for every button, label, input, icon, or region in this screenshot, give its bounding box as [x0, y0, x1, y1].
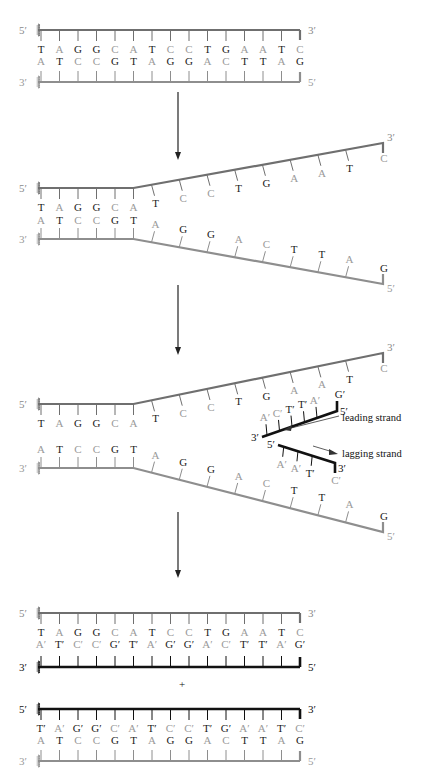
base-letter: C — [167, 43, 174, 55]
base-letter: A — [241, 43, 249, 55]
base-letter: G′ — [73, 722, 83, 734]
base-letter: A′ — [310, 394, 320, 406]
base-letter: T — [278, 43, 285, 55]
base-letter: C′ — [92, 638, 102, 650]
five-prime-label: 5′ — [308, 755, 316, 767]
base-letter: G′ — [295, 638, 305, 650]
three-prime-label: 3′ — [308, 703, 316, 715]
daughter-duplex-1: 5′3′3′5′TA′AT′GC′GC′CG′AT′TA′CG′CG′TA′GC… — [19, 607, 316, 673]
base-letter: G — [111, 55, 119, 67]
base-letter: G′ — [110, 638, 120, 650]
base-letter: A′ — [147, 638, 157, 650]
base-tick — [283, 447, 284, 457]
base-tick — [290, 372, 293, 383]
strand-end-squiggle — [38, 398, 40, 410]
base-letter: T — [38, 417, 45, 429]
base-letter: G — [179, 456, 187, 468]
base-letter: T′ — [240, 638, 249, 650]
daughter-duplex-2: 5′3′3′5′T′AA′TG′CG′CC′GA′TT′AC′GC′GT′AG′… — [19, 703, 316, 767]
base-letter: C′ — [221, 638, 231, 650]
base-letter: G — [296, 734, 304, 746]
base-letter: C — [93, 55, 100, 67]
base-letter: A — [346, 253, 354, 265]
strand-end-squiggle — [38, 76, 40, 88]
arrow-step-2 — [175, 285, 181, 355]
three-prime-label: 3′ — [338, 462, 346, 474]
base-letter: C — [74, 443, 81, 455]
base-letter: T — [130, 214, 137, 226]
base-letter: A′ — [277, 458, 287, 470]
five-prime-label: 5′ — [308, 661, 316, 673]
base-tick — [318, 155, 321, 166]
base-letter: T — [38, 626, 45, 638]
base-letter: C — [380, 152, 387, 164]
plus-sign: + — [179, 678, 185, 690]
base-letter: A — [259, 43, 267, 55]
base-letter: G — [111, 443, 119, 455]
base-tick — [179, 236, 182, 247]
base-letter: C′ — [273, 407, 283, 419]
base-tick — [152, 185, 155, 196]
base-letter: T — [318, 491, 325, 503]
base-letter: C — [111, 417, 118, 429]
base-letter: C′ — [166, 722, 176, 734]
base-letter: A — [37, 443, 45, 455]
base-letter: G′ — [184, 638, 194, 650]
base-letter: G — [222, 43, 230, 55]
base-letter: T — [318, 248, 325, 260]
arrow-step-3 — [175, 512, 181, 578]
base-letter: T — [241, 55, 248, 67]
base-letter: T — [56, 55, 63, 67]
base-letter: A — [148, 734, 156, 746]
base-letter: T — [149, 43, 156, 55]
three-prime-label: 3′ — [387, 341, 395, 353]
base-letter: C′ — [295, 722, 305, 734]
base-tick — [318, 261, 321, 272]
bottom-strand-backbone — [38, 239, 383, 284]
base-letter: A′ — [239, 722, 249, 734]
three-prime-label: 3′ — [19, 462, 27, 474]
base-letter: C′ — [73, 638, 83, 650]
base-tick — [152, 231, 155, 242]
base-letter: A — [235, 470, 243, 482]
three-prime-label: 3′ — [19, 755, 27, 767]
base-letter: A′ — [291, 462, 301, 474]
base-letter: T — [291, 484, 298, 496]
base-letter: C — [263, 238, 270, 250]
base-letter: A — [152, 218, 160, 230]
base-tick — [346, 266, 349, 277]
base-letter: G′ — [335, 388, 345, 400]
panel-1-parent-duplex: 5′3′3′5′TAATGCGCCGATTACGCGTAGCATATTACG — [19, 24, 316, 88]
base-letter: T — [149, 626, 156, 638]
base-letter: G′ — [91, 722, 101, 734]
base-tick — [207, 476, 210, 487]
base-letter: G — [74, 201, 82, 213]
base-letter: A′ — [202, 638, 212, 650]
base-letter: A′ — [258, 722, 268, 734]
base-letter: T — [56, 443, 63, 455]
five-prime-label: 5′ — [267, 438, 275, 450]
lagging-arrowhead-icon — [329, 449, 338, 455]
base-tick — [279, 420, 280, 431]
base-letter: T — [260, 734, 267, 746]
base-letter: A — [56, 43, 64, 55]
base-letter: C — [263, 477, 270, 489]
base-letter: G — [74, 417, 82, 429]
base-letter: T — [346, 162, 353, 174]
base-letter: A — [278, 734, 286, 746]
base-letter: G — [222, 626, 230, 638]
base-letter: A — [204, 734, 212, 746]
base-tick — [346, 511, 349, 522]
lagging-strand-label: lagging strand — [342, 448, 403, 459]
base-letter: A — [37, 55, 45, 67]
base-letter: T — [204, 626, 211, 638]
base-letter: C — [93, 443, 100, 455]
base-tick — [262, 378, 265, 389]
five-prime-label: 5′ — [387, 530, 395, 542]
base-letter: G — [111, 734, 119, 746]
base-letter: G — [262, 177, 270, 189]
base-letter: A — [318, 167, 326, 179]
base-letter: A′ — [128, 722, 138, 734]
base-letter: C — [380, 362, 387, 374]
base-tick — [316, 407, 317, 418]
